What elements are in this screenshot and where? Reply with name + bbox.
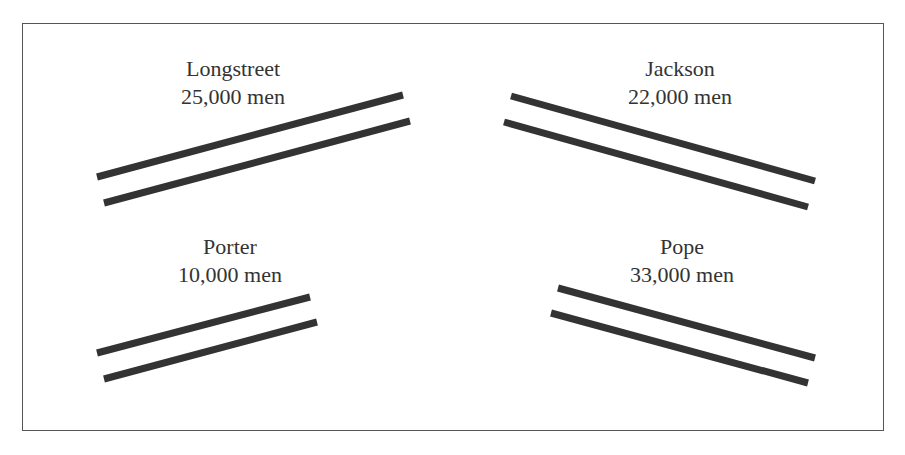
jackson-lines-icon [504,96,815,207]
pope-name: Pope [582,233,782,261]
longstreet-label: Longstreet 25,000 men [133,55,333,111]
troop-line [97,297,310,353]
pope-lines-icon [551,288,815,383]
pope-strength: 33,000 men [582,261,782,289]
jackson-label: Jackson 22,000 men [580,55,780,111]
jackson-name: Jackson [580,55,780,83]
pope-label: Pope 33,000 men [582,233,782,289]
porter-lines-icon [97,297,317,379]
longstreet-lines-icon [97,95,410,203]
porter-label: Porter 10,000 men [130,233,330,289]
longstreet-name: Longstreet [133,55,333,83]
porter-strength: 10,000 men [130,261,330,289]
troop-line [104,322,317,379]
porter-name: Porter [130,233,330,261]
jackson-strength: 22,000 men [580,83,780,111]
longstreet-strength: 25,000 men [133,83,333,111]
